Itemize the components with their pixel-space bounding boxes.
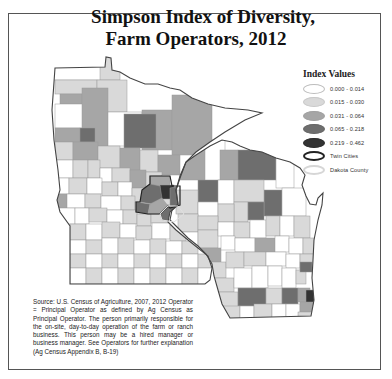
swatch-dakota-county (303, 165, 325, 175)
legend-label: 0.015 - 0.030 (330, 99, 364, 105)
legend-item: 0.000 - 0.014 (303, 82, 383, 96)
legend-item: 0.031 - 0.064 (303, 109, 383, 123)
swatch-class-4 (303, 138, 325, 148)
swatch-class-3 (303, 124, 325, 134)
legend-item: Twin Cities (303, 150, 383, 164)
legend-label: 0.031 - 0.064 (330, 113, 364, 119)
wisconsin-counties (175, 140, 316, 320)
legend-label: Twin Cities (330, 153, 358, 159)
swatch-class-1 (303, 97, 325, 107)
legend-label: 0.065 - 0.218 (330, 126, 364, 132)
legend-title: Index Values (303, 69, 383, 79)
legend: Index Values 0.000 - 0.014 0.015 - 0.030… (303, 69, 383, 177)
legend-item: Dakota County (303, 163, 383, 177)
legend-item: 0.065 - 0.218 (303, 123, 383, 137)
legend-label: 0.219 - 0.462 (330, 140, 364, 146)
swatch-twin-cities (303, 151, 325, 161)
legend-label: 0.000 - 0.014 (330, 86, 364, 92)
legend-item: 0.015 - 0.030 (303, 96, 383, 110)
source-note: Source: U.S. Census of Agriculture, 2007… (33, 298, 193, 356)
swatch-class-0 (303, 84, 325, 94)
legend-item: 0.219 - 0.462 (303, 136, 383, 150)
swatch-class-2 (303, 111, 325, 121)
legend-label: Dakota County (330, 167, 368, 173)
